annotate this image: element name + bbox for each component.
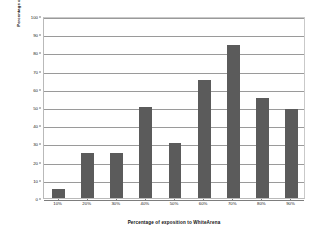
y-axis-tick-mark	[39, 108, 41, 109]
y-axis-tick-labels: 0102030405060708090100	[20, 17, 41, 199]
y-axis-tick-label: 70	[20, 69, 38, 74]
bars-layer	[44, 18, 304, 198]
y-axis-tick-mark	[39, 126, 41, 127]
y-axis-tick-label: 20	[20, 160, 38, 165]
x-axis-tick-label: 50%	[159, 201, 188, 207]
y-axis-tick-mark	[39, 35, 41, 36]
bar	[256, 98, 269, 198]
x-axis-title: Percentage of exposition to WhiteArena	[43, 220, 305, 225]
x-axis-tick-mark	[232, 199, 233, 201]
y-axis-tick-mark	[39, 71, 41, 72]
y-axis-tick-label: 100	[20, 15, 38, 20]
y-axis-tick-mark	[39, 144, 41, 145]
x-axis-tick-label: 80%	[247, 201, 276, 207]
bar	[285, 109, 298, 198]
x-axis-tick-labels: 10%20%30%40%50%60%70%80%90%	[43, 201, 305, 211]
y-axis-tick-mark	[39, 180, 41, 181]
x-axis-tick-label: 60%	[189, 201, 218, 207]
x-axis-tick-mark	[58, 199, 59, 201]
plot-area	[43, 17, 305, 199]
x-axis-tick-label: 70%	[218, 201, 247, 207]
bar	[139, 107, 152, 198]
x-axis-tick-mark	[145, 199, 146, 201]
bar	[52, 189, 65, 198]
x-axis-tick-label: 30%	[101, 201, 130, 207]
y-axis-tick-mark	[39, 53, 41, 54]
y-axis-tick-mark	[39, 17, 41, 18]
bar	[198, 80, 211, 198]
y-axis-tick-label: 10	[20, 178, 38, 183]
bar	[110, 153, 123, 199]
bar	[169, 143, 182, 198]
y-axis-tick-label: 80	[20, 51, 38, 56]
x-axis-tick-label: 10%	[43, 201, 72, 207]
y-axis-tick-mark	[39, 89, 41, 90]
x-axis-tick-mark	[174, 199, 175, 201]
x-axis-tick-mark	[116, 199, 117, 201]
x-axis-tick-mark	[87, 199, 88, 201]
x-axis-tick-label: 40%	[130, 201, 159, 207]
bar-chart-figure: Percentage of rabats 0102030405060708090…	[0, 0, 319, 237]
y-axis-tick-label: 30	[20, 142, 38, 147]
y-axis-tick-mark	[39, 162, 41, 163]
x-axis-tick-mark	[290, 199, 291, 201]
y-axis-tick-mark	[39, 199, 41, 200]
y-axis-tick-label: 50	[20, 106, 38, 111]
x-axis-tick-mark	[203, 199, 204, 201]
bar	[227, 45, 240, 198]
y-axis-tick-label: 90	[20, 33, 38, 38]
x-axis-tick-label: 20%	[72, 201, 101, 207]
x-axis-tick-label: 90%	[276, 201, 305, 207]
y-axis-tick-label: 60	[20, 87, 38, 92]
y-axis-tick-label: 40	[20, 124, 38, 129]
x-axis-tick-mark	[261, 199, 262, 201]
bar	[81, 153, 94, 199]
y-axis-tick-label: 0	[20, 197, 38, 202]
